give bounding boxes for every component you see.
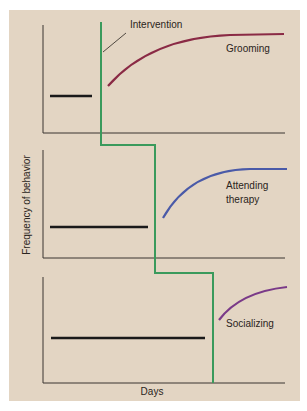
treatment-curve-attending	[163, 169, 287, 218]
x-axis-label: Days	[141, 386, 164, 397]
grooming-label: Grooming	[226, 43, 270, 54]
treatment-curve-socializing	[219, 287, 287, 320]
panel-attending-therapy: Attending therapy	[43, 150, 287, 258]
treatment-curve-grooming	[108, 34, 284, 86]
attending-label-line2: therapy	[226, 194, 259, 205]
multiple-baseline-chart: Intervention Grooming Attending therapy …	[0, 0, 307, 411]
intervention-label: Intervention	[130, 19, 182, 30]
intervention-pointer	[103, 33, 126, 52]
socializing-label: Socializing	[226, 318, 274, 329]
panel-socializing: Socializing	[43, 277, 287, 383]
panel-grooming: Intervention Grooming	[43, 19, 285, 133]
attending-label-line1: Attending	[226, 180, 268, 191]
y-axis-label: Frequency of behavior	[21, 155, 32, 255]
